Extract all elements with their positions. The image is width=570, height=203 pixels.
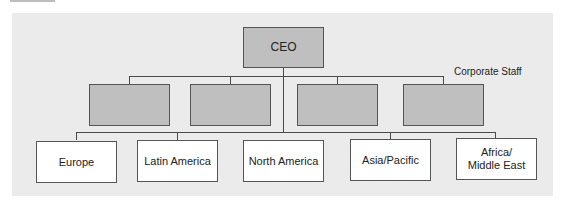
- division-africa-middle-east: Africa/ Middle East: [456, 138, 537, 180]
- ceo-trunk-line: [283, 68, 284, 132]
- division-drop-1: [76, 132, 77, 140]
- staff-drop-3: [337, 76, 338, 84]
- division-latin-america: Latin America: [137, 140, 218, 182]
- corporate-staff-label: Corporate Staff: [454, 66, 522, 77]
- division-label: North America: [249, 155, 319, 168]
- ceo-box: CEO: [243, 27, 324, 68]
- staff-drop-4: [443, 76, 444, 84]
- division-bus-line: [76, 132, 496, 133]
- division-europe: Europe: [36, 141, 117, 183]
- division-label-line1: Africa/: [481, 146, 512, 159]
- division-north-america: North America: [243, 140, 324, 182]
- division-label: Europe: [59, 156, 94, 169]
- staff-box-3: [297, 84, 378, 126]
- staff-bus-line: [129, 76, 444, 77]
- division-label-line2: Middle East: [468, 159, 525, 172]
- staff-drop-2: [230, 76, 231, 84]
- division-drop-2: [177, 132, 178, 140]
- staff-box-4: [403, 84, 484, 126]
- staff-drop-1: [129, 76, 130, 84]
- staff-box-1: [89, 84, 170, 126]
- staff-box-2: [190, 84, 271, 126]
- ceo-label: CEO: [270, 41, 296, 54]
- division-label: Asia/Pacific: [362, 154, 419, 167]
- division-asia-pacific: Asia/Pacific: [350, 139, 431, 181]
- header-stripe: [10, 0, 55, 2]
- division-label: Latin America: [144, 155, 211, 168]
